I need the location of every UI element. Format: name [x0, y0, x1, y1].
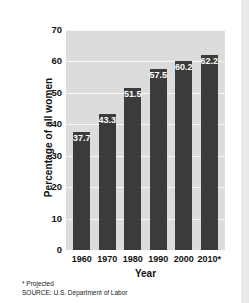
x-tick-label: 1960 — [69, 253, 95, 266]
bar[interactable]: 43.3 — [99, 114, 116, 250]
bar-slot: 43.3 — [95, 30, 121, 250]
bar[interactable]: 37.7 — [73, 132, 90, 250]
bar-value-label: 62.2 — [200, 57, 218, 66]
bar-slot: 37.7 — [69, 30, 95, 250]
y-tick-label: 60 — [38, 57, 62, 67]
y-tick-label: 40 — [38, 120, 62, 130]
x-tick-label: 1980 — [120, 253, 146, 266]
y-tick-label: 0 — [38, 245, 62, 255]
y-tick-label: 30 — [38, 151, 62, 161]
bar-series: 37.743.351.557.560.262.2 — [66, 30, 225, 250]
bar-slot: 51.5 — [120, 30, 146, 250]
bar-slot: 60.2 — [171, 30, 197, 250]
footnote-source: SOURCE: U.S. Department of Labor — [22, 288, 232, 297]
bar[interactable]: 51.5 — [124, 88, 141, 250]
x-tick-label: 2000 — [171, 253, 197, 266]
bar-chart-figure: Percentage of all women 010203040506070 … — [0, 0, 249, 303]
y-tick-label: 50 — [38, 88, 62, 98]
bar[interactable]: 62.2 — [201, 55, 218, 250]
y-tick-label: 10 — [38, 214, 62, 224]
bar-value-label: 60.2 — [175, 63, 193, 72]
x-axis-title: Year — [66, 268, 225, 279]
footnote-projected: * Projected — [22, 279, 232, 288]
bar-value-label: 43.3 — [98, 116, 116, 125]
plot-area: 37.743.351.557.560.262.2 — [66, 30, 225, 250]
y-axis-tick-labels: 010203040506070 — [38, 30, 62, 250]
x-tick-label: 2010* — [197, 253, 223, 266]
bar-value-label: 57.5 — [149, 71, 167, 80]
y-tick-label: 70 — [38, 25, 62, 35]
x-axis-tick-labels: 196019701980199020002010* — [66, 253, 225, 266]
bar-slot: 62.2 — [197, 30, 223, 250]
x-tick-label: 1970 — [95, 253, 121, 266]
chart-footnotes: * Projected SOURCE: U.S. Department of L… — [22, 279, 232, 297]
bar-slot: 57.5 — [146, 30, 172, 250]
bar-value-label: 37.7 — [73, 134, 91, 143]
page-edge-band — [241, 0, 249, 303]
bar[interactable]: 57.5 — [150, 69, 167, 250]
x-tick-label: 1990 — [146, 253, 172, 266]
bar[interactable]: 60.2 — [175, 61, 192, 250]
bar-value-label: 51.5 — [124, 90, 142, 99]
y-tick-label: 20 — [38, 182, 62, 192]
